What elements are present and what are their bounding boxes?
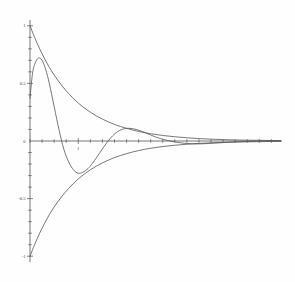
x-tick-label-group: 1 [77, 146, 80, 151]
curve-damped-oscillation [30, 58, 281, 174]
y-tick-label-group: 10.50-0.5-1 [18, 23, 26, 258]
y-tick-label: 0.5 [20, 81, 26, 86]
y-tick-label: -0.5 [18, 196, 26, 201]
y-tick-label: 1 [23, 23, 26, 28]
x-tick-label: 1 [77, 146, 80, 151]
axes-group [27, 20, 281, 262]
curve-upper-envelope [30, 26, 281, 141]
y-tick-label: 0 [23, 139, 26, 144]
plot-figure: 1 10.50-0.5-1 [0, 0, 295, 282]
x-axis-ticks [30, 138, 271, 144]
plot-canvas: 1 10.50-0.5-1 [0, 0, 295, 282]
y-tick-label: -1 [22, 254, 27, 259]
